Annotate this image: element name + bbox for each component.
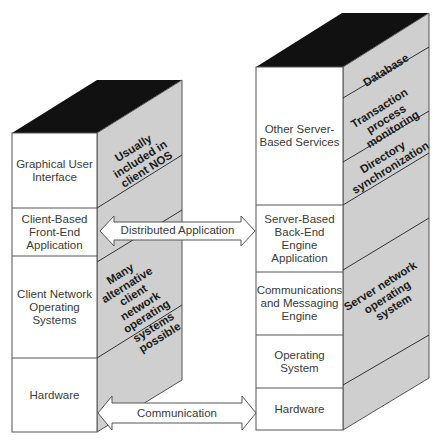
distributed-application-label: Distributed Application	[114, 224, 241, 236]
client-layer-front-end-app: Client-Based Front-End Application	[12, 208, 97, 256]
client-layer-gui: Graphical User Interface	[12, 133, 97, 208]
client-layer-client-nos: Client Network Operating Systems	[16, 256, 93, 358]
server-layer-operating-system: Operating System	[262, 335, 337, 388]
server-layer-back-end-app: Server-Based Back-End Engine Application	[256, 205, 343, 272]
server-layer-other-services: Other Server-Based Services	[256, 67, 343, 205]
client-layer-hardware: Hardware	[12, 358, 97, 432]
server-layer-comm-messaging: Communications and Messaging Engine	[256, 272, 343, 335]
communication-label: Communication	[112, 407, 242, 419]
server-layer-hardware: Hardware	[256, 388, 343, 430]
